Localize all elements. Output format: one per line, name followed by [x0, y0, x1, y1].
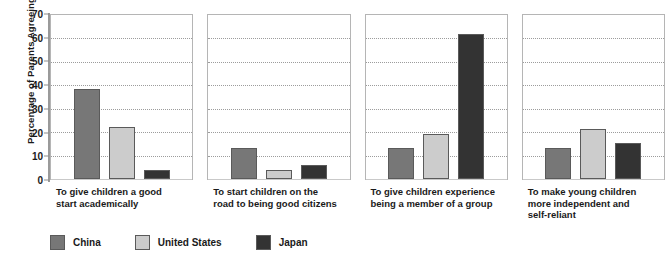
y-axis-tick-30: 30: [32, 103, 43, 114]
y-axis-tick-0: 0: [37, 175, 43, 186]
bar-united-states: [109, 127, 135, 179]
legend-label: Japan: [279, 237, 308, 248]
panel-group: [50, 14, 665, 180]
plot-area: [522, 14, 665, 180]
gridline-0: [366, 179, 507, 180]
bar-china: [74, 89, 100, 179]
caption-line: road to being good citizens: [213, 198, 350, 210]
gridline-0: [523, 179, 664, 180]
bar-japan: [458, 34, 484, 179]
chart-panel-3: [365, 14, 508, 180]
bar-china: [231, 148, 257, 179]
category-caption-2: To start children on theroad to being go…: [207, 186, 350, 221]
bar-united-states: [580, 129, 606, 179]
y-axis-tick-10: 10: [32, 151, 43, 162]
caption-line: self-reliant: [528, 209, 665, 221]
bar-japan: [144, 170, 170, 179]
chart-panel-1: [50, 14, 193, 180]
gridline-0: [51, 179, 192, 180]
y-axis-tickmark-40: [44, 85, 49, 86]
legend-swatch-icon: [256, 235, 271, 250]
bar-japan: [615, 143, 641, 179]
y-axis-tickmark-70: [44, 14, 49, 15]
caption-line: more independent and: [528, 198, 665, 210]
caption-line: To give children experience: [371, 186, 508, 198]
caption-line: To make young children: [528, 186, 665, 198]
legend-swatch-icon: [50, 235, 65, 250]
chart-legend: ChinaUnited StatesJapan: [50, 235, 342, 250]
y-axis-tick-60: 60: [32, 32, 43, 43]
y-axis-tick-20: 20: [32, 127, 43, 138]
legend-swatch-icon: [135, 235, 150, 250]
chart-panel-4: [522, 14, 665, 180]
y-axis-tickmark-50: [44, 61, 49, 62]
y-axis-tick-40: 40: [32, 80, 43, 91]
category-caption-1: To give children a goodstart academicall…: [50, 186, 193, 221]
category-caption-group: To give children a goodstart academicall…: [50, 186, 665, 221]
legend-item-united-states: United States: [135, 235, 222, 250]
bar-united-states: [423, 134, 449, 179]
caption-line: To give children a good: [56, 186, 193, 198]
plot-area: [365, 14, 508, 180]
plot-area: [50, 14, 193, 180]
bar-united-states: [266, 170, 292, 179]
legend-item-japan: Japan: [256, 235, 308, 250]
y-axis-tickmark-10: [44, 156, 49, 157]
y-axis-tick-70: 70: [32, 9, 43, 20]
category-caption-3: To give children experiencebeing a membe…: [365, 186, 508, 221]
caption-line: start academically: [56, 198, 193, 210]
legend-item-china: China: [50, 235, 101, 250]
bar-japan: [301, 165, 327, 179]
gridline-0: [208, 179, 349, 180]
bar-group: [366, 15, 507, 179]
bar-group: [208, 15, 349, 179]
bar-china: [545, 148, 571, 179]
caption-line: To start children on the: [213, 186, 350, 198]
legend-label: China: [73, 237, 101, 248]
bar-china: [388, 148, 414, 179]
grouped-bar-chart: Percentage of Parents Agreeing 706050403…: [0, 0, 669, 256]
y-axis-tickmark-60: [44, 37, 49, 38]
chart-panel-2: [207, 14, 350, 180]
plot-area: [207, 14, 350, 180]
caption-line: being a member of a group: [371, 198, 508, 210]
y-axis-tickmark-30: [44, 108, 49, 109]
y-axis-tick-labels: 706050403020100: [22, 14, 46, 180]
y-axis-tickmark-0: [44, 180, 49, 181]
legend-label: United States: [158, 237, 222, 248]
y-axis-tick-50: 50: [32, 56, 43, 67]
bar-group: [51, 15, 192, 179]
category-caption-4: To make young childrenmore independent a…: [522, 186, 665, 221]
bar-group: [523, 15, 664, 179]
y-axis-tickmark-20: [44, 132, 49, 133]
